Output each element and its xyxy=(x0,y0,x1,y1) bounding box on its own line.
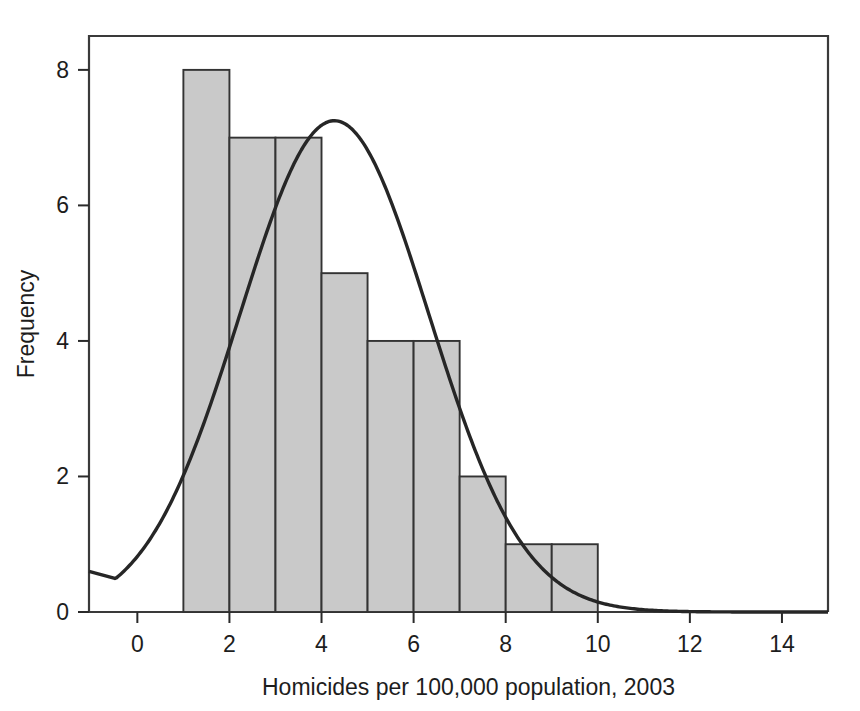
x-tick-label: 10 xyxy=(585,631,611,657)
histogram-bar xyxy=(183,70,229,612)
x-tick-label: 12 xyxy=(677,631,703,657)
y-tick-label: 4 xyxy=(56,328,69,354)
y-axis-ticks xyxy=(78,70,89,612)
histogram-bar xyxy=(414,341,460,612)
x-tick-label: 6 xyxy=(407,631,420,657)
histogram-bar xyxy=(368,341,414,612)
histogram-bar xyxy=(552,544,598,612)
histogram-bar xyxy=(275,138,321,612)
x-tick-label: 0 xyxy=(131,631,144,657)
y-axis-tick-labels: 02468 xyxy=(56,57,69,625)
chart-figure: 02468101214 02468 Homicides per 100,000 … xyxy=(0,0,860,711)
x-tick-label: 4 xyxy=(315,631,328,657)
histogram-bar xyxy=(460,476,506,612)
y-tick-label: 0 xyxy=(56,599,69,625)
x-tick-label: 14 xyxy=(769,631,795,657)
histogram-bars xyxy=(183,70,597,612)
x-tick-label: 8 xyxy=(499,631,512,657)
histogram-bar xyxy=(229,138,275,612)
y-tick-label: 2 xyxy=(56,463,69,489)
histogram-bar xyxy=(322,273,368,612)
histogram-plot: 02468101214 02468 Homicides per 100,000 … xyxy=(0,0,860,711)
y-tick-label: 8 xyxy=(56,57,69,83)
x-axis-ticks xyxy=(137,612,782,623)
x-axis-tick-labels: 02468101214 xyxy=(131,631,795,657)
y-axis-title: Frequency xyxy=(13,269,39,378)
y-tick-label: 6 xyxy=(56,192,69,218)
x-axis-title: Homicides per 100,000 population, 2003 xyxy=(262,674,675,700)
x-tick-label: 2 xyxy=(223,631,236,657)
